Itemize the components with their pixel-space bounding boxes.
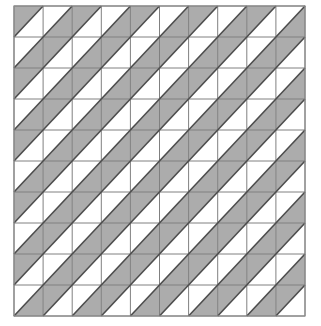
triangle-tiling-canvas — [0, 0, 321, 326]
triangle-tiling-figure — [0, 0, 321, 326]
